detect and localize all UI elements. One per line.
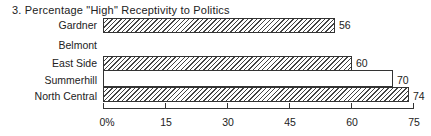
- x-tick-60: [351, 103, 352, 109]
- x-axis-line: [103, 108, 414, 109]
- category-label-belmont: Belmont: [58, 39, 97, 51]
- x-tick-0: [103, 103, 104, 109]
- x-tick-label-15: 15: [160, 116, 172, 128]
- value-label-gardner: 56: [339, 19, 351, 31]
- value-label-summerhill: 70: [397, 74, 409, 86]
- x-tick-45: [289, 103, 290, 109]
- category-label-east-side: East Side: [52, 57, 97, 69]
- category-label-gardner: Gardner: [58, 19, 97, 31]
- x-tick-label-75: 75: [408, 116, 420, 128]
- bar-gardner: [103, 18, 335, 33]
- x-tick-30: [227, 103, 228, 109]
- x-tick-15: [165, 103, 166, 109]
- chart-title: 3. Percentage "High" Receptivity to Poli…: [12, 4, 230, 16]
- x-tick-75: [413, 103, 414, 109]
- value-label-east-side: 60: [356, 57, 368, 69]
- x-tick-label-60: 60: [346, 116, 358, 128]
- bar-east-side: [103, 56, 352, 71]
- bar-summerhill: [103, 70, 393, 87]
- x-tick-label-0: 0%: [99, 116, 114, 128]
- x-tick-label-30: 30: [222, 116, 234, 128]
- category-label-north-central: North Central: [35, 90, 97, 102]
- x-tick-label-45: 45: [284, 116, 296, 128]
- category-label-summerhill: Summerhill: [44, 74, 97, 86]
- bar-north-central: [103, 87, 409, 102]
- value-label-north-central: 74: [413, 90, 425, 102]
